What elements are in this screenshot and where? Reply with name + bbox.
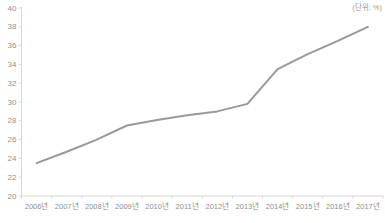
x-tick-label: 2013년 [236, 201, 260, 211]
y-tick-label: 22 [8, 173, 17, 182]
x-tick-label: 2008년 [85, 201, 109, 211]
x-tick-label: 2014년 [266, 201, 290, 211]
x-tick-label: 2006년 [25, 201, 49, 211]
chart-canvas: 20222426283032343638402006년2007년2008년200… [0, 0, 385, 223]
y-tick-label: 34 [8, 60, 17, 69]
x-tick-label: 2017년 [356, 201, 380, 211]
y-tick-label: 26 [8, 135, 17, 144]
x-tick-label: 2012년 [205, 201, 229, 211]
y-tick-label: 36 [8, 41, 17, 50]
x-tick-label: 2015년 [296, 201, 320, 211]
x-tick-label: 2010년 [145, 201, 169, 211]
data-line [37, 27, 368, 163]
x-tick-label: 2011년 [176, 201, 199, 211]
x-tick-label: 2007년 [55, 201, 79, 211]
y-tick-label: 40 [8, 4, 17, 13]
y-tick-label: 24 [8, 154, 17, 163]
y-tick-label: 32 [8, 79, 17, 88]
x-tick-label: 2016년 [326, 201, 350, 211]
unit-label: (단위: %) [352, 1, 382, 12]
x-tick-label: 2009년 [115, 201, 139, 211]
line-chart: (단위: %) 20222426283032343638402006년2007년… [0, 0, 385, 223]
y-tick-label: 20 [8, 192, 17, 201]
y-tick-label: 30 [8, 98, 17, 107]
y-tick-label: 38 [8, 22, 17, 31]
y-tick-label: 28 [8, 116, 17, 125]
